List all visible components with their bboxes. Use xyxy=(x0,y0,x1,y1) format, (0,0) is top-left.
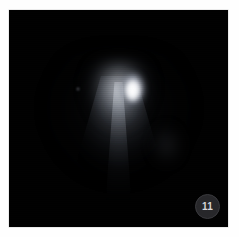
figure-number-label: 11 xyxy=(202,202,213,212)
figure-number-badge[interactable]: 11 xyxy=(195,194,220,219)
jet xyxy=(102,82,136,200)
nucleus-peak xyxy=(126,82,139,101)
diffuse-halo xyxy=(34,58,204,227)
comet-astrophotograph: 11 xyxy=(9,10,228,227)
inner-coma xyxy=(82,62,156,158)
field-star xyxy=(76,87,80,91)
dust-fan xyxy=(64,76,174,216)
comet-render-layer xyxy=(9,10,228,227)
page-canvas: 11 xyxy=(0,0,239,237)
nebulosity xyxy=(148,118,190,176)
nucleus xyxy=(120,72,146,108)
